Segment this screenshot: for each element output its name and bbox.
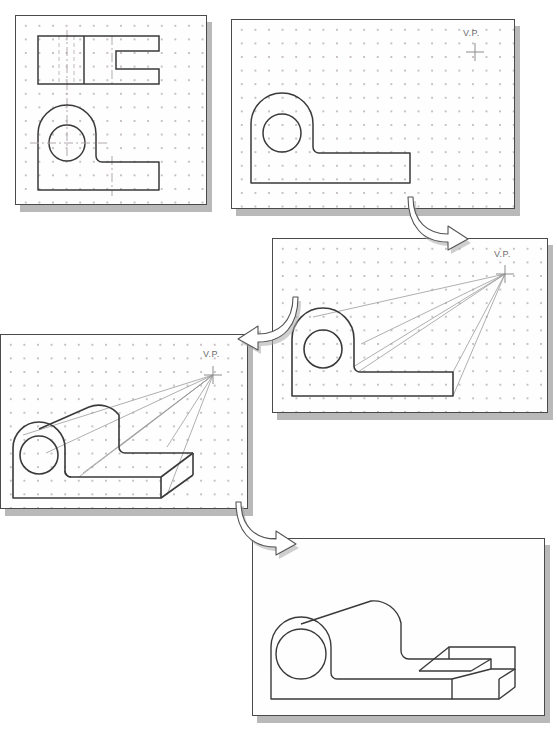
panel-1-drawing <box>16 16 208 206</box>
panel-2-vp-label: V.P. <box>463 28 480 38</box>
panel-3-vp-label: V.P. <box>494 249 511 259</box>
panel-5 <box>252 538 545 716</box>
diagram-canvas: V.P. <box>0 0 557 735</box>
panel-4-vp-cross-layer <box>1 335 249 510</box>
panel-3-drawing <box>273 239 549 414</box>
panel-5-drawing <box>253 539 546 717</box>
panel-3: V.P. <box>272 238 548 413</box>
arrow-2 <box>228 292 300 350</box>
arrow-3 <box>236 497 308 555</box>
arrow-1 <box>408 192 478 250</box>
panel-2-vp-cross <box>466 43 484 61</box>
panel-2-drawing <box>232 20 516 210</box>
panel-2: V.P. <box>231 19 515 209</box>
panel-4-vp-cross <box>204 366 222 384</box>
panel-3-vp-cross <box>496 265 514 283</box>
panel-4: V.P. <box>0 334 248 509</box>
panel-1 <box>15 15 207 205</box>
panel-3-projection-lines <box>313 274 505 396</box>
